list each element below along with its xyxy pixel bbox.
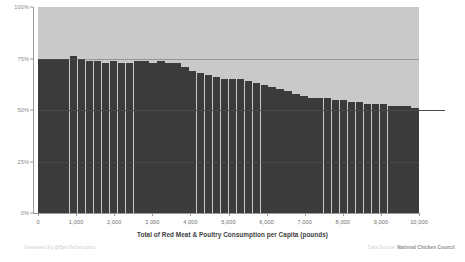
bar-lower-segment (261, 85, 268, 213)
bar-lower-segment (126, 63, 133, 213)
x-axis-tick-label: 4,000 (183, 219, 198, 225)
bar-lower-segment (213, 77, 220, 213)
bar-lower-segment (300, 96, 307, 213)
bar-lower-segment (46, 59, 53, 214)
y-axis-line (33, 7, 34, 213)
x-axis-tick-label: 2,000 (107, 219, 122, 225)
bar-lower-segment (308, 98, 315, 213)
x-axis-tick-mark (419, 213, 420, 216)
data-source: Data Source: National Chicken Council (368, 245, 455, 250)
x-axis-tick-label: 1,000 (69, 219, 84, 225)
x-axis-tick-mark (76, 213, 77, 216)
bar-lower-segment (332, 100, 339, 213)
x-axis-tick-mark (343, 213, 344, 216)
bar-lower-segment (229, 79, 236, 213)
x-axis-tick-labels: 01,0002,0003,0004,0005,0006,0007,0008,00… (38, 214, 419, 226)
y-axis-tick-mark (30, 213, 33, 214)
bar-lower-segment (181, 67, 188, 213)
x-axis-tick-label: 5,000 (221, 219, 236, 225)
credit-author: Generated by @BamTechnication (24, 245, 96, 250)
bar-lower-segment (189, 71, 196, 213)
x-axis-tick-mark (190, 213, 191, 216)
bar-lower-segment (197, 73, 204, 213)
x-axis-tick-mark (38, 213, 39, 216)
bar-lower-segment (364, 104, 371, 213)
bar-lower-segment (340, 100, 347, 213)
x-axis-tick-label: 3,000 (145, 219, 160, 225)
bar-lower-segment (70, 56, 77, 213)
y-axis-tick-mark (30, 58, 33, 59)
x-axis-tick-mark (114, 213, 115, 216)
chart-container: 0%25%50%75%100% 01,0002,0003,0004,0005,0… (0, 0, 465, 262)
bar-lower-segment (110, 61, 117, 213)
bar-lower-segment (253, 83, 260, 213)
x-axis-tick-label: 10,000 (410, 219, 428, 225)
bar-lower-segment (276, 89, 283, 213)
gridline (38, 162, 419, 163)
bar-lower-segment (149, 63, 156, 213)
x-axis-tick-label: 6,000 (259, 219, 274, 225)
bar-lower-segment (78, 59, 85, 214)
bar-lower-segment (221, 79, 228, 213)
gridline (38, 59, 419, 60)
bar-lower-segment (411, 108, 418, 213)
bar-lower-segment (38, 59, 45, 214)
x-axis-tick-label: 7,000 (297, 219, 312, 225)
bar-lower-segment (118, 63, 125, 213)
bar-lower-segment (356, 102, 363, 213)
bar-lower-segment (316, 98, 323, 213)
x-axis-tick-mark (267, 213, 268, 216)
bar-lower-segment (292, 94, 299, 213)
x-axis-tick-label: 9,000 (374, 219, 389, 225)
x-axis-tick-label: 8,000 (336, 219, 351, 225)
bar-lower-segment (102, 63, 109, 213)
bar-lower-segment (141, 61, 148, 213)
x-axis-tick-label: 0 (36, 219, 39, 225)
bar-lower-segment (165, 63, 172, 213)
bar-lower-segment (268, 87, 275, 213)
x-axis-tick-mark (229, 213, 230, 216)
bar-lower-segment (403, 106, 410, 213)
bar-lower-segment (245, 81, 252, 213)
y-axis-tick-mark (30, 161, 33, 162)
x-axis-tick-mark (381, 213, 382, 216)
bar-lower-segment (348, 102, 355, 213)
bar-lower-segment (157, 61, 164, 213)
bar-lower-segment (372, 104, 379, 213)
reference-line-50 (38, 110, 445, 111)
bar-lower-segment (380, 104, 387, 213)
bar-lower-segment (324, 98, 331, 213)
y-axis-tick-mark (30, 7, 33, 8)
bar-lower-segment (205, 75, 212, 213)
x-axis-tick-mark (152, 213, 153, 216)
bar-lower-segment (388, 106, 395, 213)
x-axis-tick-mark (305, 213, 306, 216)
bar-lower-segment (62, 59, 69, 214)
bar-lower-segment (86, 61, 93, 213)
bar-lower-segment (237, 79, 244, 213)
bar-lower-segment (94, 61, 101, 213)
bar-lower-segment (134, 61, 141, 213)
y-axis-tick-mark (30, 110, 33, 111)
x-axis-title: Total of Red Meat & Poultry Consumption … (0, 231, 465, 238)
data-source-value: National Chicken Council (397, 245, 455, 250)
bar-lower-segment (395, 106, 402, 213)
bar-lower-segment (173, 63, 180, 213)
bar-lower-segment (54, 59, 61, 214)
data-source-label: Data Source: (368, 245, 396, 250)
